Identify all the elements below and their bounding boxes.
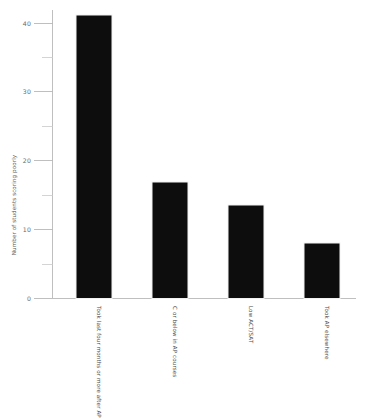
bar-chart-figure: Number of students scoring poorly 40 30 …: [0, 0, 369, 418]
bar-2: [152, 182, 188, 299]
bar-series: [76, 15, 340, 299]
y-axis-minor-ticks: [42, 58, 53, 265]
x-tick-label-4: Took AP elsewhere: [324, 305, 330, 360]
y-axis-major-ticks: [34, 24, 53, 299]
chart-canvas: Number of students scoring poorly 40 30 …: [0, 0, 369, 418]
x-tick-label-2: C or below in AP courses: [172, 306, 178, 377]
bar-4: [304, 243, 340, 299]
x-axis-tick-labels: Took last four months or more after AP C…: [96, 305, 330, 418]
y-tick-label-20: 20: [23, 157, 31, 164]
y-tick-label-0: 0: [27, 295, 31, 302]
y-axis-tick-labels: 40 30 20 10 0: [23, 20, 31, 302]
x-tick-label-1: Took last four months or more after AP: [96, 305, 102, 418]
bar-1: [76, 15, 112, 299]
y-axis-title: Number of students scoring poorly: [11, 154, 18, 255]
y-tick-label-40: 40: [23, 20, 31, 27]
x-tick-label-3: Low ACT/SAT: [248, 306, 254, 344]
y-axis-title-group: Number of students scoring poorly: [11, 154, 18, 255]
y-tick-label-10: 10: [23, 226, 31, 233]
y-tick-label-30: 30: [23, 88, 31, 95]
bar-3: [228, 205, 264, 299]
